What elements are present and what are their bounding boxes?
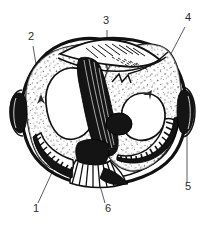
- cross-section-illustration: 1 2 3 4 5 6: [0, 0, 204, 229]
- label-3: 3: [103, 14, 109, 26]
- anatomical-figure: 1 2 3 4 5 6: [0, 0, 204, 229]
- left-collateral-mass: [10, 90, 27, 136]
- ligament-attachment-bolus: [106, 113, 132, 135]
- right-collateral-mass: [177, 87, 195, 137]
- label-1: 1: [33, 202, 39, 214]
- label-4: 4: [185, 11, 191, 23]
- label-2: 2: [28, 30, 34, 42]
- label-5: 5: [185, 180, 191, 192]
- label-6: 6: [105, 202, 111, 214]
